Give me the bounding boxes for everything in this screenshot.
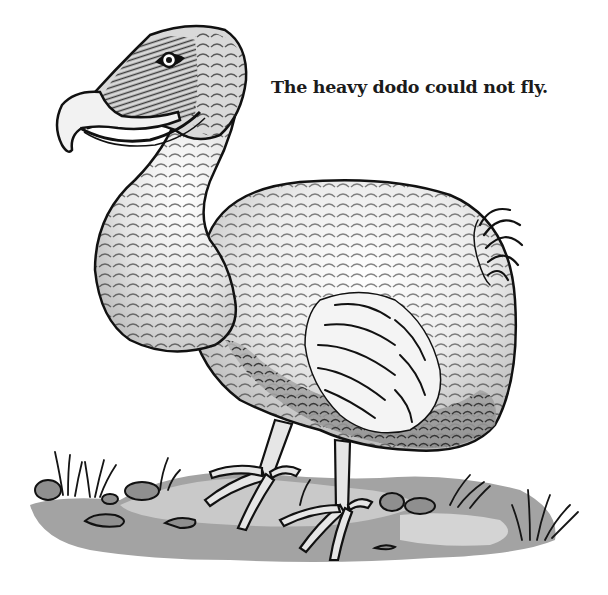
illustration-page: The heavy dodo could not fly. [0,0,608,595]
caption: The heavy dodo could not fly. [271,77,548,97]
